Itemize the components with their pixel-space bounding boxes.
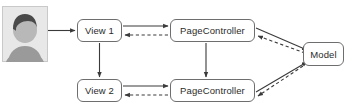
node-view-1-label: View 1 [85,25,114,36]
edge-model-to-pagecontroller2 [258,66,303,96]
node-page-controller-2[interactable]: PageController [170,79,255,102]
node-view-2-label: View 2 [85,85,114,96]
node-page-controller-2-label: PageController [180,85,245,96]
node-page-controller-1[interactable]: PageController [170,19,255,42]
node-model-label: Model [310,49,336,60]
edge-pagecontroller1-to-model [256,28,307,50]
node-view-2[interactable]: View 2 [77,79,122,102]
user-actor-icon [2,6,48,62]
edge-pagecontroller2-to-model [256,62,307,92]
page-controller-diagram: View 1 View 2 PageController PageControl… [0,0,347,111]
node-view-1[interactable]: View 1 [77,19,122,42]
node-model[interactable]: Model [303,42,344,66]
node-page-controller-1-label: PageController [180,25,245,36]
